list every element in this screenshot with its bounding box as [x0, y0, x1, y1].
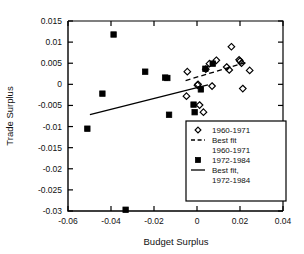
x-tick-label: -0.06: [58, 216, 78, 226]
data-point-filled-square: [142, 69, 147, 74]
data-point-filled-square: [192, 110, 197, 115]
y-tick-label: -0.01: [43, 122, 63, 132]
y-tick-label: -0.005: [38, 100, 62, 110]
data-point-filled-square: [111, 32, 116, 37]
x-tick-label: -0.02: [144, 216, 164, 226]
legend-label: 1960-1971: [212, 126, 251, 135]
x-axis-title: Budget Surplus: [144, 236, 209, 247]
x-tick-label: -0.04: [101, 216, 121, 226]
y-tick-label: 0: [57, 79, 62, 89]
y-tick-label: -0.015: [38, 143, 62, 153]
y-tick-label: 0.01: [45, 37, 62, 47]
legend-label: Best fit: [212, 136, 237, 145]
data-point-filled-square: [165, 75, 170, 80]
data-point-filled-square: [123, 207, 128, 212]
data-point-filled-square: [196, 158, 201, 163]
x-tick-label: 0.02: [232, 216, 249, 226]
x-tick-label: 0: [195, 216, 200, 226]
y-axis-title: Trade Surplus: [4, 86, 15, 146]
legend-label-line2: 1972-1984: [212, 176, 251, 185]
figure: -0.06-0.04-0.0200.020.04 0.0150.010.0050…: [0, 0, 304, 254]
data-point-filled-square: [85, 126, 90, 131]
legend-label: Best fit,: [212, 166, 239, 175]
y-tick-label: -0.025: [38, 185, 62, 195]
y-tick-label: 0.005: [41, 58, 63, 68]
data-point-filled-square: [166, 112, 171, 117]
legend-label: 1972-1984: [212, 156, 251, 165]
y-tick-label: 0.015: [41, 16, 63, 26]
data-point-filled-square: [100, 91, 105, 96]
x-tick-label: 0.04: [275, 216, 292, 226]
y-tick-label: -0.03: [43, 206, 63, 216]
y-tick-label: -0.02: [43, 164, 63, 174]
scatter-chart: -0.06-0.04-0.0200.020.04 0.0150.010.0050…: [0, 0, 304, 254]
data-point-filled-square: [191, 102, 196, 107]
legend-label-line2: 1960-1971: [212, 146, 251, 155]
legend-box: 1960-1971Best fit1960-19711972-1984Best …: [186, 121, 286, 201]
